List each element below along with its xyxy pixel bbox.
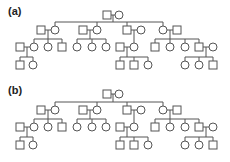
- male-square-icon: [16, 43, 24, 51]
- relationship-lines: [20, 94, 213, 141]
- male-square-icon: [123, 106, 131, 114]
- female-circle-icon: [209, 43, 217, 51]
- male-square-icon: [79, 106, 87, 114]
- female-circle-icon: [51, 106, 59, 114]
- pedigree-chart-b: [0, 81, 230, 162]
- male-square-icon: [209, 141, 217, 149]
- male-square-icon: [116, 141, 124, 149]
- pedigree-panel-b: (b): [0, 81, 230, 162]
- female-circle-icon: [93, 106, 101, 114]
- male-square-icon: [116, 123, 124, 131]
- male-square-icon: [79, 26, 87, 34]
- female-circle-icon: [144, 61, 152, 69]
- male-square-icon: [37, 26, 45, 34]
- female-circle-icon: [102, 43, 110, 51]
- female-circle-icon: [51, 26, 59, 34]
- male-square-icon: [130, 61, 138, 69]
- male-square-icon: [151, 43, 159, 51]
- female-circle-icon: [93, 26, 101, 34]
- female-circle-icon: [195, 61, 203, 69]
- female-circle-icon: [209, 123, 217, 131]
- male-square-icon: [16, 61, 24, 69]
- male-square-icon: [151, 123, 159, 131]
- female-circle-icon: [144, 141, 152, 149]
- female-circle-icon: [181, 43, 189, 51]
- female-circle-icon: [44, 43, 52, 51]
- female-circle-icon: [115, 11, 123, 19]
- female-circle-icon: [181, 123, 189, 131]
- male-square-icon: [58, 43, 66, 51]
- female-circle-icon: [88, 43, 96, 51]
- female-circle-icon: [115, 90, 123, 98]
- male-square-icon: [173, 26, 181, 34]
- female-circle-icon: [166, 43, 174, 51]
- female-circle-icon: [30, 43, 38, 51]
- female-circle-icon: [181, 141, 189, 149]
- female-circle-icon: [195, 141, 203, 149]
- female-circle-icon: [102, 123, 110, 131]
- male-square-icon: [195, 123, 203, 131]
- female-circle-icon: [137, 26, 145, 34]
- female-circle-icon: [159, 106, 167, 114]
- female-circle-icon: [130, 123, 138, 131]
- male-square-icon: [123, 26, 131, 34]
- individuals: [16, 11, 217, 69]
- male-square-icon: [116, 43, 124, 51]
- male-square-icon: [209, 61, 217, 69]
- male-square-icon: [16, 141, 24, 149]
- male-square-icon: [103, 11, 111, 19]
- male-square-icon: [173, 106, 181, 114]
- female-circle-icon: [88, 123, 96, 131]
- female-circle-icon: [73, 43, 81, 51]
- male-square-icon: [130, 141, 138, 149]
- male-square-icon: [58, 123, 66, 131]
- female-circle-icon: [29, 141, 37, 149]
- female-circle-icon: [30, 123, 38, 131]
- female-circle-icon: [130, 43, 138, 51]
- male-square-icon: [116, 61, 124, 69]
- female-circle-icon: [181, 61, 189, 69]
- female-circle-icon: [44, 123, 52, 131]
- male-square-icon: [16, 123, 24, 131]
- female-circle-icon: [137, 106, 145, 114]
- male-square-icon: [103, 90, 111, 98]
- pedigree-chart-a: [0, 0, 230, 81]
- female-circle-icon: [166, 123, 174, 131]
- male-square-icon: [195, 43, 203, 51]
- female-circle-icon: [29, 61, 37, 69]
- pedigree-panel-a: (a): [0, 0, 230, 81]
- relationship-lines: [20, 15, 213, 61]
- female-circle-icon: [73, 123, 81, 131]
- female-circle-icon: [159, 26, 167, 34]
- male-square-icon: [37, 106, 45, 114]
